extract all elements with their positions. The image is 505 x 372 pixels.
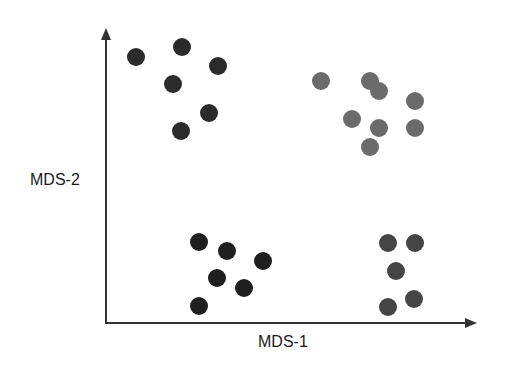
- data-point: [406, 234, 424, 252]
- data-point: [405, 290, 423, 308]
- series-cluster-top-left: [127, 38, 227, 140]
- data-point: [312, 72, 330, 90]
- data-point: [209, 57, 227, 75]
- data-point: [208, 269, 226, 287]
- data-point: [164, 75, 182, 93]
- data-point: [406, 119, 424, 137]
- data-point: [406, 92, 424, 110]
- data-point: [218, 242, 236, 260]
- data-point: [379, 234, 397, 252]
- y-axis-arrow-icon: [101, 28, 111, 40]
- data-point: [379, 298, 397, 316]
- series-cluster-top-right: [312, 72, 424, 156]
- data-point: [190, 233, 208, 251]
- data-points: [127, 38, 424, 316]
- data-point: [361, 138, 379, 156]
- data-point: [200, 104, 218, 122]
- data-point: [127, 48, 145, 66]
- data-point: [370, 82, 388, 100]
- axes: [101, 28, 477, 328]
- data-point: [387, 262, 405, 280]
- series-cluster-bottom-left: [190, 233, 272, 315]
- data-point: [370, 119, 388, 137]
- data-point: [172, 122, 190, 140]
- x-axis-label: MDS-1: [258, 333, 308, 351]
- data-point: [173, 38, 191, 56]
- data-point: [235, 279, 253, 297]
- data-point: [254, 252, 272, 270]
- data-point: [343, 110, 361, 128]
- x-axis-arrow-icon: [465, 318, 477, 328]
- y-axis-label: MDS-2: [30, 171, 80, 189]
- data-point: [190, 297, 208, 315]
- series-cluster-bottom-right: [379, 234, 424, 316]
